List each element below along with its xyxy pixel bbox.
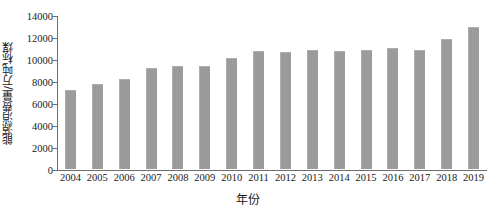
bar (414, 50, 425, 169)
x-tick-label: 2007 (141, 172, 162, 183)
x-tick-label: 2009 (194, 172, 215, 183)
x-tick-label: 2015 (356, 172, 377, 183)
y-tick-mark (53, 38, 57, 39)
bar (468, 27, 479, 169)
bar (361, 50, 372, 169)
x-tick-label: 2017 (409, 172, 430, 183)
y-tick-label: 12000 (27, 33, 53, 44)
bar (387, 48, 398, 169)
bar (92, 84, 103, 169)
y-axis-title: 能源消费量/万吨标煤 (0, 14, 16, 172)
y-tick-mark (53, 170, 57, 171)
x-tick-label: 2016 (382, 172, 403, 183)
x-tick-label: 2011 (248, 172, 269, 183)
x-tick-label: 2012 (275, 172, 296, 183)
x-axis-title: 年份 (0, 190, 495, 207)
y-tick-label: 4000 (32, 121, 53, 132)
x-tick-label: 2004 (60, 172, 81, 183)
x-tick-label: 2014 (329, 172, 350, 183)
y-tick-label: 6000 (32, 99, 53, 110)
bar (146, 68, 157, 169)
x-tick-label: 2006 (114, 172, 135, 183)
x-tick-label: 2008 (167, 172, 188, 183)
y-tick-mark (53, 104, 57, 105)
y-tick-mark (53, 126, 57, 127)
y-tick-mark (53, 16, 57, 17)
bar-chart-figure: 能源消费量/万吨标煤 02000400060008000100001200014… (0, 0, 495, 224)
y-axis-line (57, 16, 58, 171)
y-tick-label: 8000 (32, 77, 53, 88)
bar (441, 39, 452, 169)
bar (253, 51, 264, 169)
bar (172, 66, 183, 169)
x-axis-line (57, 170, 487, 171)
y-tick-label: 10000 (27, 55, 53, 66)
y-tick-label: 2000 (32, 143, 53, 154)
y-tick-mark (53, 82, 57, 83)
bar (280, 52, 291, 169)
bar (226, 58, 237, 169)
x-tick-label: 2013 (302, 172, 323, 183)
bar (334, 51, 345, 169)
bar (65, 90, 76, 169)
y-tick-label: 14000 (27, 11, 53, 22)
x-tick-label: 2005 (87, 172, 108, 183)
y-axis-title-text: 能源消费量/万吨标煤 (3, 42, 14, 145)
y-tick-mark (53, 148, 57, 149)
bar (119, 79, 130, 169)
plot-area (57, 16, 487, 170)
x-tick-label: 2018 (436, 172, 457, 183)
x-axis-tick-labels: 2004200520062007200820092010201120122013… (57, 172, 487, 188)
bar (307, 50, 318, 169)
y-tick-mark (53, 60, 57, 61)
x-tick-label: 2010 (221, 172, 242, 183)
x-tick-label: 2019 (463, 172, 484, 183)
bar (199, 66, 210, 169)
